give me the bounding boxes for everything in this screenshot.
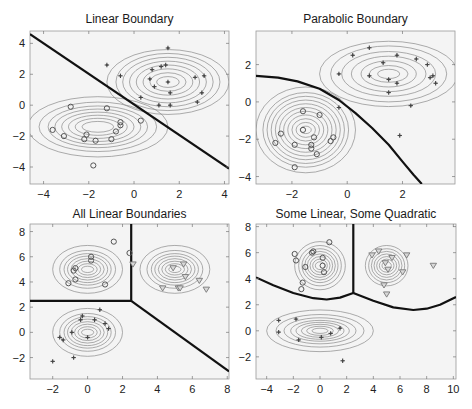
- figure: Linear Boundary −4−2024−4−2024 Parabolic…: [0, 0, 472, 409]
- y-tick-label: 8: [19, 226, 25, 238]
- axes-frame: [256, 224, 456, 379]
- y-tick-label: −2: [12, 352, 25, 364]
- y-tick-label: 0: [19, 99, 25, 111]
- x-tick-label: −2: [83, 188, 96, 200]
- panel-title: All Linear Boundaries: [72, 207, 186, 221]
- y-tick-label: −2: [12, 130, 25, 142]
- y-tick-label: 6: [19, 251, 25, 263]
- x-tick-label: −2: [287, 383, 300, 395]
- x-tick-label: 0: [344, 188, 350, 200]
- x-tick-label: −2: [46, 383, 59, 395]
- y-tick-label: −2: [238, 351, 251, 363]
- y-tick-label: 2: [19, 301, 25, 313]
- x-tick-label: −4: [260, 383, 273, 395]
- x-tick-label: 0: [317, 383, 323, 395]
- x-tick-label: 6: [189, 383, 195, 395]
- y-tick-label: 4: [19, 276, 25, 288]
- panel-title: Some Linear, Some Quadratic: [276, 207, 437, 221]
- x-tick-label: 2: [176, 188, 182, 200]
- y-tick-label: 0: [245, 325, 251, 337]
- y-tick-label: 2: [245, 299, 251, 311]
- x-tick-label: 8: [424, 383, 430, 395]
- x-tick-label: 2: [119, 383, 125, 395]
- x-tick-label: 4: [370, 383, 376, 395]
- y-tick-label: 8: [245, 221, 251, 233]
- x-tick-label: −4: [37, 188, 50, 200]
- panel-linear-boundary: Linear Boundary −4−2024−4−2024: [12, 12, 229, 200]
- y-tick-label: 2: [245, 59, 251, 71]
- x-tick-label: 10: [447, 383, 459, 395]
- x-tick-label: 2: [399, 188, 405, 200]
- y-tick-label: 4: [19, 37, 25, 49]
- y-tick-label: 2: [19, 68, 25, 80]
- panel-parabolic-boundary: Parabolic Boundary −202−4−202: [238, 12, 457, 200]
- y-tick-label: 6: [245, 247, 251, 259]
- x-tick-label: 6: [397, 383, 403, 395]
- y-tick-label: 0: [19, 326, 25, 338]
- x-tick-label: 2: [344, 383, 350, 395]
- panel-all-linear-boundaries: All Linear Boundaries −202468−202468: [12, 207, 230, 395]
- x-tick-label: 8: [224, 383, 230, 395]
- y-tick-label: 0: [245, 96, 251, 108]
- x-tick-label: 4: [221, 188, 227, 200]
- x-tick-label: 0: [85, 383, 91, 395]
- x-tick-label: 4: [154, 383, 160, 395]
- x-tick-label: 0: [131, 188, 137, 200]
- y-tick-label: −2: [238, 133, 251, 145]
- panel-some-linear-some-quadratic: Some Linear, Some Quadratic −4−20246810−…: [238, 207, 459, 395]
- y-tick-label: −4: [12, 161, 25, 173]
- axes-frame: [256, 31, 455, 184]
- y-tick-label: −4: [238, 171, 251, 183]
- y-tick-label: 4: [245, 273, 251, 285]
- panel-title: Linear Boundary: [85, 12, 173, 26]
- panel-title: Parabolic Boundary: [303, 12, 408, 26]
- x-tick-label: −2: [286, 188, 299, 200]
